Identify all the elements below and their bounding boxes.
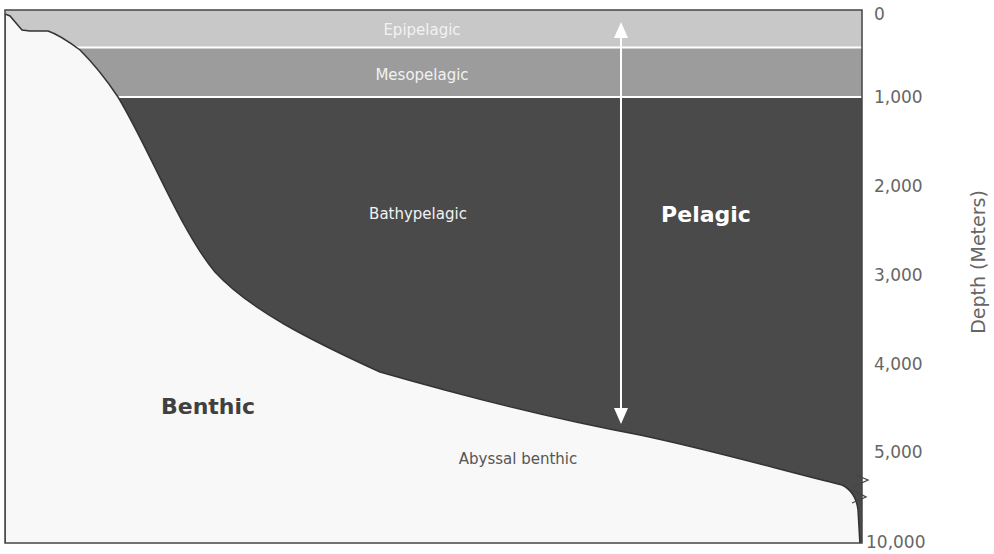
depth-tick-5000: 5,000: [874, 442, 923, 462]
epipelagic-label: Epipelagic: [383, 21, 460, 39]
depth-tick-3000: 3,000: [874, 265, 923, 285]
depth-axis-title: Depth (Meters): [967, 190, 989, 334]
pelagic-label: Pelagic: [661, 202, 751, 227]
depth-tick-2000: 2,000: [874, 176, 923, 196]
benthic-label: Benthic: [161, 394, 255, 419]
depth-tick-1000: 1,000: [874, 87, 923, 107]
depth-tick-0: 0: [874, 4, 885, 24]
bathypelagic-label: Bathypelagic: [369, 205, 467, 223]
mesopelagic-label: Mesopelagic: [375, 66, 468, 84]
depth-tick-4000: 4,000: [874, 354, 923, 374]
ocean-zones-diagram: Epipelagic Mesopelagic Bathypelagic Pela…: [0, 0, 994, 554]
depth-tick-10000: 10,000: [866, 532, 925, 552]
abyssal-benthic-label: Abyssal benthic: [459, 450, 577, 468]
